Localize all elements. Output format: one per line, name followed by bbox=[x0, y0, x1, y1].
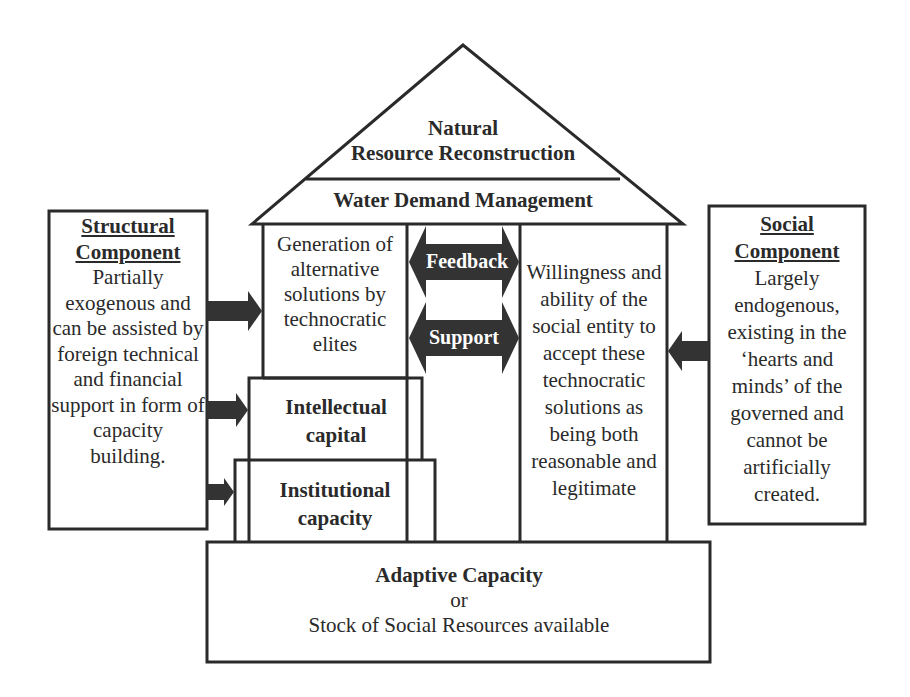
social-arrow bbox=[668, 331, 709, 371]
social-heading: Social bbox=[711, 211, 863, 238]
feedback-label: Feedback bbox=[426, 249, 502, 274]
intellectual-capital-label: Intellectualcapital bbox=[251, 393, 421, 449]
structural-arrow-1 bbox=[207, 291, 262, 331]
social-component-text: Social Component Largelyendogenous,exist… bbox=[711, 211, 863, 508]
support-label: Support bbox=[426, 325, 502, 350]
structural-arrow-2 bbox=[207, 393, 248, 427]
right-pillar-text: Willingness andability of thesocial enti… bbox=[522, 259, 666, 502]
left-pillar-text: Generation ofalternativesolutions bytech… bbox=[265, 232, 405, 357]
structural-heading: Structural bbox=[51, 214, 205, 240]
foundation-text: Adaptive Capacity or Stock of Social Res… bbox=[209, 563, 709, 638]
institutional-capacity-label: Institutionalcapacity bbox=[237, 476, 433, 532]
roof-top-label: Natural Resource Reconstruction bbox=[330, 116, 596, 166]
roof-band-label: Water Demand Management bbox=[290, 188, 636, 213]
structural-arrow-3 bbox=[207, 478, 234, 506]
structural-component-text: Structural Component Partiallyexogenous … bbox=[51, 214, 205, 469]
